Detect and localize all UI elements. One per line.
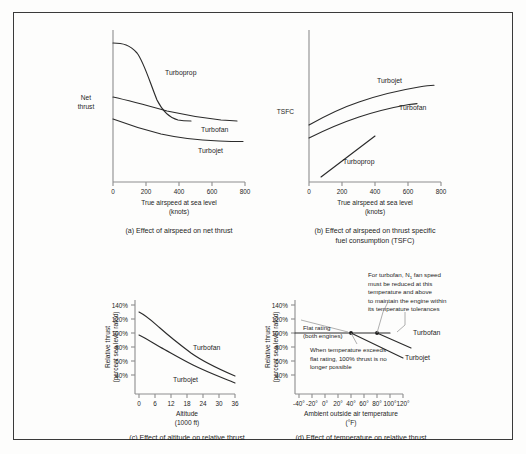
chart-d-annotation-2: When temperature exceeds flat rating, 10… [310, 346, 387, 370]
chart-d-xtick-6: 80° [372, 400, 382, 407]
chart-a-xticks: 0 200 400 600 800 [111, 182, 251, 195]
chart-a-xtick-0: 0 [111, 188, 115, 195]
chart-c-xtick-0: 0 [137, 400, 141, 407]
chart-b-xtick-0: 0 [307, 188, 311, 195]
chart-c-curve-turbofan [139, 312, 235, 376]
chart-c-xtick-5: 30 [215, 400, 223, 407]
chart-d-ylabel-line2: (percent sea level rated) [272, 311, 280, 382]
figure-svg: 0 200 400 600 800 Net thrust Turboprop T… [13, 12, 513, 440]
chart-d-xtick-0: -40° [293, 400, 305, 407]
chart-b-xtick-1: 200 [337, 188, 348, 195]
chart-d-xtick-5: 60° [359, 400, 369, 407]
chart-d-annotation-1-line4: to maintain the engine within [368, 297, 447, 304]
chart-c-ylabel-line2: (percent sea level rated) [112, 311, 120, 382]
chart-a-curve-turbofan [113, 97, 237, 121]
chart-c-xlabel-line2: (1000 ft) [175, 419, 200, 427]
chart-d-xtick-4: 40° [346, 400, 356, 407]
chart-b-xlabel-line1: True airspeed at sea level [337, 199, 413, 207]
chart-a-xtick-3: 600 [207, 188, 218, 195]
chart-d-annotation-1: For turbofan, N1 fan speed must be reduc… [368, 271, 447, 312]
figure-area: 0 200 400 600 800 Net thrust Turboprop T… [13, 12, 513, 440]
chart-c: 140% 120% 100% 80% 60% 40% 0 [104, 300, 245, 440]
chart-d-ytick-0: 140% [272, 302, 289, 309]
chart-d-xtick-1: -20° [306, 400, 318, 407]
chart-b-label-turboprop: Turboprop [343, 158, 375, 166]
chart-d-label-turbofan: Turbofan [413, 329, 440, 336]
chart-b-ylabel: TSFC [277, 108, 294, 115]
chart-b-curve-turboprop [321, 136, 375, 177]
chart-d-xtick-2: 0° [322, 400, 329, 407]
chart-d-xticks: -40° -20° 0° 20° 40° 60° 80° 100° 120° [293, 394, 410, 407]
chart-c-xtick-3: 18 [183, 400, 191, 407]
chart-d-annotation-2-line3: longer possible [310, 363, 352, 370]
chart-c-xtick-4: 24 [199, 400, 207, 407]
chart-a-xtick-4: 800 [240, 188, 251, 195]
chart-c-xticks: 0 6 12 18 24 30 36 [137, 394, 239, 407]
chart-a-label-turbojet: Turbojet [198, 147, 223, 155]
chart-c-caption: (c) Effect of altitude on relative thrus… [129, 434, 244, 440]
chart-b-xlabel-line2: (knots) [365, 208, 385, 216]
chart-b-caption-line1: (b) Effect of airspeed on thrust specifi… [315, 227, 436, 235]
chart-a-xlabel-line2: (knots) [169, 208, 189, 216]
chart-a-curve-turboprop [113, 43, 191, 121]
chart-d-xtick-3: 20° [333, 400, 343, 407]
figure-page: 0 200 400 600 800 Net thrust Turboprop T… [0, 0, 526, 454]
chart-b-xtick-4: 800 [436, 188, 447, 195]
chart-d-xlabel-line1: Ambient outside air temperature [304, 410, 398, 418]
chart-d-annotation-2-line2: flat rating, 100% thrust is no [310, 355, 387, 362]
chart-d-xlabel-line2: (°F) [345, 419, 356, 427]
chart-b-label-turbofan: Turbofan [399, 104, 426, 111]
chart-a-ylabel-line1: Net [81, 94, 91, 101]
chart-c-xtick-2: 12 [167, 400, 175, 407]
chart-a: 0 200 400 600 800 Net thrust Turboprop T… [78, 30, 251, 235]
chart-d-annotation-1-line1: For turbofan, N1 fan speed [368, 271, 442, 280]
chart-c-label-turbofan: Turbofan [193, 344, 220, 351]
chart-a-caption: (a) Effect of airspeed on net thrust [125, 227, 232, 235]
chart-d-annotation-1-line2: must be reduced at this [368, 280, 432, 287]
chart-d-label-turbojet: Turbojet [405, 354, 430, 362]
chart-a-label-turbofan: Turbofan [201, 126, 228, 133]
chart-b: 0 200 400 600 800 TSFC Turbojet Turbofan… [277, 30, 447, 245]
chart-a-label-turboprop: Turboprop [165, 69, 197, 77]
chart-b-xticks: 0 200 400 600 800 [307, 182, 447, 195]
chart-c-xtick-1: 6 [153, 400, 157, 407]
chart-d-leader-annotation-1b [397, 312, 405, 332]
chart-c-xlabel-line1: Altitude [176, 410, 198, 417]
chart-d-annotation-1-line3: temperature and above [368, 288, 433, 295]
chart-d-xtick-8: 120° [396, 400, 410, 407]
chart-b-label-turbojet: Turbojet [377, 77, 402, 85]
chart-c-ytick-0: 140% [112, 302, 129, 309]
chart-c-xtick-6: 36 [231, 400, 239, 407]
chart-d: 140% 120% 100% 80% 60% 40% [264, 271, 447, 440]
chart-d-caption: (d) Effect of temperature on relative th… [295, 434, 426, 440]
chart-c-label-turbojet: Turbojet [173, 376, 198, 384]
chart-a-xtick-1: 200 [141, 188, 152, 195]
chart-d-flat-rating-label-line1: Flat rating [303, 324, 331, 331]
chart-a-xlabel-line1: True airspeed at sea level [141, 199, 217, 207]
chart-d-annotation-2-line1: When temperature exceeds [310, 346, 386, 353]
chart-d-flat-rating-label-line2: (both engines) [303, 332, 343, 339]
chart-b-caption-line2: fuel consumption (TSFC) [336, 237, 415, 245]
chart-a-ylabel-line2: thrust [78, 103, 95, 110]
chart-b-xtick-2: 400 [370, 188, 381, 195]
chart-d-xtick-7: 100° [383, 400, 397, 407]
chart-d-annotation-1-line5: its temperature tolerances [368, 305, 440, 312]
chart-d-ylabel-line1: Relative thrust [264, 326, 271, 368]
chart-c-ylabel-line1: Relative thrust [104, 326, 111, 368]
chart-a-xtick-2: 400 [174, 188, 185, 195]
chart-b-xtick-3: 600 [403, 188, 414, 195]
